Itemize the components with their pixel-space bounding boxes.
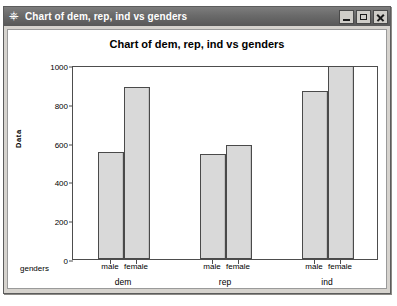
minimize-icon: [343, 19, 350, 21]
x-tick-mark: [340, 260, 341, 264]
chart-title: Chart of dem, rep, ind vs genders: [8, 38, 386, 50]
bar-rep-female: [226, 145, 252, 259]
window-title: Chart of dem, rep, ind vs genders: [25, 11, 339, 22]
maximize-button[interactable]: [356, 10, 371, 24]
maximize-icon: [360, 14, 367, 20]
bar-chart: Chart of dem, rep, ind vs genders Data 0…: [8, 30, 386, 288]
bar-ind-male: [302, 91, 328, 259]
application-window: ⎈ Chart of dem, rep, ind vs genders Char…: [3, 6, 391, 294]
x-group-label-rep: rep: [219, 277, 231, 287]
x-tick-mark: [314, 260, 315, 264]
close-button[interactable]: [373, 10, 388, 24]
java-app-icon: ⎈: [7, 10, 20, 23]
window-controls: [339, 10, 388, 24]
x-tick-mark: [110, 260, 111, 264]
x-tick-mark: [212, 260, 213, 264]
window-client-area: Chart of dem, rep, ind vs genders Data 0…: [7, 29, 387, 289]
x-axis-label: genders: [20, 264, 49, 273]
x-tick-mark: [136, 260, 137, 264]
bar-dem-male: [98, 152, 124, 259]
window-titlebar[interactable]: ⎈ Chart of dem, rep, ind vs genders: [4, 7, 390, 26]
bar-series: [73, 67, 377, 259]
bar-dem-female: [124, 87, 150, 259]
x-group-label-dem: dem: [115, 277, 132, 287]
y-axis-label: Data: [14, 129, 23, 148]
plot-area: 02004006008001000: [72, 66, 378, 260]
minimize-button[interactable]: [339, 10, 354, 24]
x-group-label-ind: ind: [321, 277, 332, 287]
bar-rep-male: [200, 154, 226, 259]
y-tick-mark: [69, 261, 73, 262]
x-tick-mark: [238, 260, 239, 264]
bar-ind-female: [328, 66, 354, 259]
